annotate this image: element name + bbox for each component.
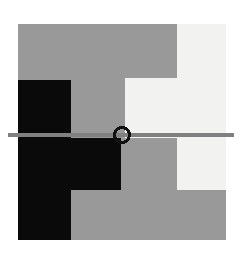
lower-right-white-block bbox=[177, 138, 226, 190]
figure-svg bbox=[0, 0, 242, 255]
composition-canvas bbox=[0, 0, 242, 255]
